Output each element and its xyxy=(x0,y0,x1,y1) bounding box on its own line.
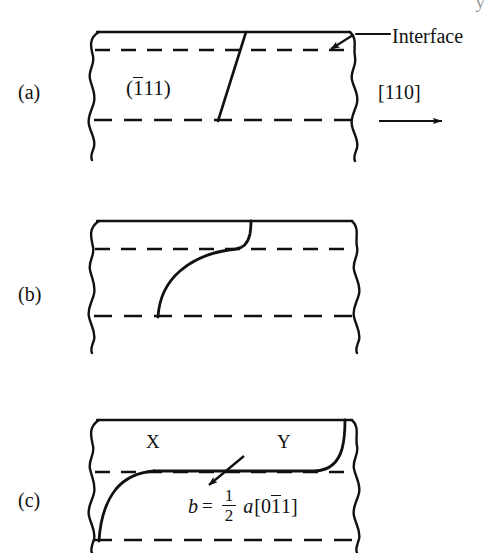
plane-index-label: (111) xyxy=(126,78,171,99)
plane-index-overline-digit: 1 xyxy=(133,78,144,99)
burgers-index-open: [0 xyxy=(254,496,271,516)
point-label-x: X xyxy=(146,432,160,451)
figure-drawing-canvas xyxy=(0,0,497,553)
panel-b-dislocation-curve xyxy=(158,221,251,317)
panel-c-dislocation-right-bow xyxy=(316,420,345,471)
panel-c-right-wavy-edge xyxy=(352,420,359,553)
figure-root: (a) (b) (c) (111) Interface [110] X Y b … xyxy=(0,0,497,553)
fraction-denominator: 2 xyxy=(222,506,237,524)
panel-c-left-wavy-edge xyxy=(89,420,99,553)
burgers-vector-equation: b = 1 2 a [0 1 1] xyxy=(188,487,298,525)
panel-label-c: (c) xyxy=(18,490,40,510)
burgers-symbol: b xyxy=(188,496,198,516)
page-edge-artifact: y xyxy=(476,0,486,13)
panel-b-group xyxy=(89,221,360,353)
direction-110-label: [110] xyxy=(378,82,421,102)
lattice-constant-symbol: a xyxy=(243,496,253,516)
panel-a-right-wavy-edge xyxy=(350,32,357,161)
point-label-y: Y xyxy=(277,432,291,451)
panel-b-left-wavy-edge xyxy=(89,221,99,353)
panel-b-right-wavy-edge xyxy=(352,221,359,353)
interface-pointer-arrow xyxy=(331,35,353,49)
panel-label-a: (a) xyxy=(18,82,40,102)
equals-sign: = xyxy=(202,496,213,515)
one-half-fraction: 1 2 xyxy=(222,487,237,525)
interface-label: Interface xyxy=(392,26,463,46)
panel-a-dislocation-line xyxy=(218,32,246,121)
fraction-numerator: 1 xyxy=(222,487,237,505)
burgers-index-overline-digit: 1 xyxy=(271,496,281,516)
plane-index-rest: 11) xyxy=(144,76,171,100)
panel-c-dislocation-left-bow xyxy=(99,471,154,541)
panel-label-b: (b) xyxy=(18,284,41,304)
burgers-index-close: 1] xyxy=(281,496,298,516)
plane-index-open: ( xyxy=(126,76,133,100)
